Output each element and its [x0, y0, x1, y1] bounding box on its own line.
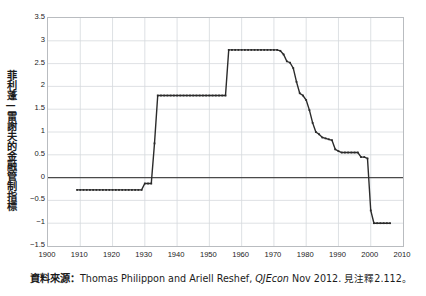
caption-source-label: 資料來源： [30, 273, 80, 284]
y-tick-label: 1.5 [5, 104, 45, 112]
y-tick-label: 2.5 [5, 59, 45, 67]
y-tick-label: 3.5 [5, 13, 45, 21]
caption-journal: QJEcon [255, 273, 289, 284]
y-tick-label: 0.5 [5, 150, 45, 158]
caption-tail: Nov 2012. 見注釋2.112。 [289, 273, 412, 284]
y-axis-title: 菲利蓬—雷謝夫的金融管制指標 [1, 42, 16, 238]
y-tick-label: 3 [5, 36, 45, 44]
plot-area [47, 17, 404, 247]
gridlines [48, 18, 403, 246]
y-tick-label: 1 [5, 127, 45, 135]
data-series-line [76, 49, 391, 224]
y-tick-label: −0.5 [5, 195, 45, 203]
figure-financial-regulation-index: 菲利蓬—雷謝夫的金融管制指標 3.532.521.510.50−0.5−1−1.… [0, 0, 426, 296]
chart-canvas [48, 18, 403, 246]
x-tick-label: 2010 [382, 251, 422, 259]
y-tick-label: −1.5 [5, 241, 45, 249]
figure-caption: 資料來源：Thomas Philippon and Ariell Reshef,… [30, 272, 422, 285]
y-tick-label: 0 [5, 173, 45, 181]
y-tick-label: 2 [5, 81, 45, 89]
caption-authors: Thomas Philippon and Ariell Reshef, [80, 273, 255, 284]
y-tick-label: −1 [5, 218, 45, 226]
